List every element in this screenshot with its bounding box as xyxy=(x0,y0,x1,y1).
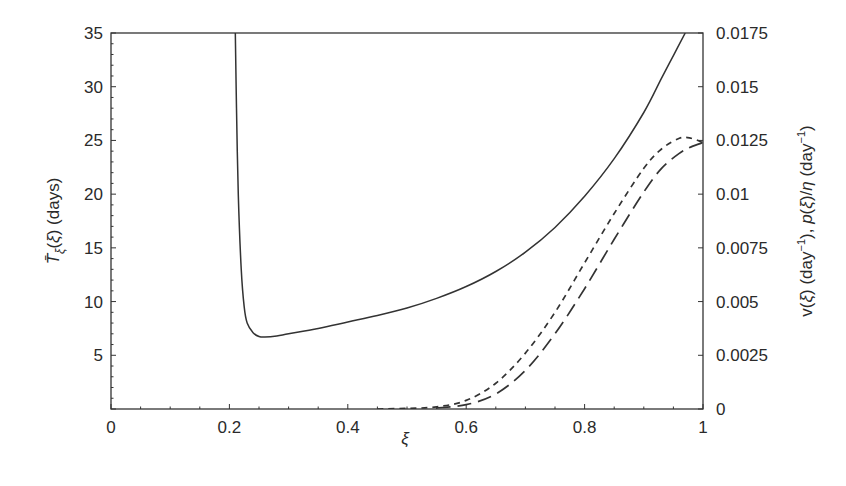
plot-frame xyxy=(111,33,703,409)
y-right-tick-label: 0.005 xyxy=(716,293,759,312)
solid-curve-T xyxy=(235,33,685,337)
x-tick-label: 0.4 xyxy=(336,418,360,437)
y-right-tick-label: 0.01 xyxy=(716,185,749,204)
svg-text:v(ξ) (day−1), p(ξ)/η (day−1): v(ξ) (day−1), p(ξ)/η (day−1) xyxy=(795,125,816,317)
x-tick-label: 0.6 xyxy=(454,418,478,437)
y-right-tick-label: 0.0025 xyxy=(716,346,768,365)
long-dash-curve-p xyxy=(437,143,703,408)
y-left-tick-label: 10 xyxy=(84,293,103,312)
y-left-tick-label: 5 xyxy=(94,346,103,365)
axes-box xyxy=(111,33,703,409)
y-right-axis-label: v(ξ) (day−1), p(ξ)/η (day−1) xyxy=(795,125,816,317)
x-tick-label: 0.2 xyxy=(218,418,242,437)
svg-text:T̄ξ(ξ) (days): T̄ξ(ξ) (days) xyxy=(44,178,67,265)
y-left-tick-label: 20 xyxy=(84,185,103,204)
x-axis-label: ξ xyxy=(401,429,410,448)
x-tick-label: 0 xyxy=(106,418,115,437)
y-right-tick-label: 0.015 xyxy=(716,78,759,97)
axis-ticks xyxy=(111,33,703,409)
tick-labels: 00.20.40.60.81510152025303500.00250.0050… xyxy=(84,24,768,437)
short-dash-curve-v xyxy=(377,137,703,409)
y-right-tick-label: 0 xyxy=(716,400,725,419)
y-right-tick-label: 0.0175 xyxy=(716,24,768,43)
y-left-tick-label: 25 xyxy=(84,131,103,150)
y-left-axis-label: T̄ξ(ξ) (days) xyxy=(44,178,67,265)
y-right-tick-label: 0.0125 xyxy=(716,131,768,150)
y-left-tick-label: 35 xyxy=(84,24,103,43)
x-tick-label: 0.8 xyxy=(573,418,597,437)
curves xyxy=(235,33,703,409)
chart-figure: 00.20.40.60.81510152025303500.00250.0050… xyxy=(0,0,846,486)
x-tick-label: 1 xyxy=(698,418,707,437)
y-left-tick-label: 15 xyxy=(84,239,103,258)
y-right-tick-label: 0.0075 xyxy=(716,239,768,258)
y-left-tick-label: 30 xyxy=(84,78,103,97)
